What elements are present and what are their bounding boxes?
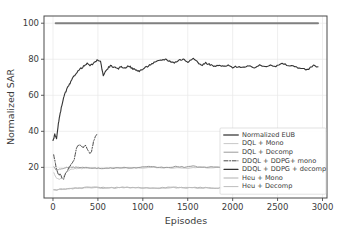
x-axis-title: Episodes: [165, 215, 207, 226]
y-tick-label: 40: [28, 126, 39, 136]
y-tick-label: 100: [23, 18, 39, 28]
y-tick-label: 20: [28, 162, 39, 172]
legend-label: DQL + Mono: [242, 139, 284, 147]
x-axis-tick-labels: 050010001500200025003000: [50, 202, 333, 212]
x-tick-label: 500: [90, 202, 106, 212]
x-tick-label: 0: [50, 202, 55, 212]
x-tick-label: 1000: [132, 202, 154, 212]
chart-figure: 050010001500200025003000 20406080100 Epi…: [0, 0, 340, 234]
x-tick-label: 2500: [267, 202, 289, 212]
chart-canvas: 050010001500200025003000 20406080100 Epi…: [0, 0, 340, 234]
legend-label: Heu + Decomp: [242, 182, 292, 190]
series-line: [54, 167, 222, 179]
series-line: [54, 187, 222, 190]
y-axis-tick-labels: 20406080100: [23, 18, 39, 172]
legend-label: DQL + Decomp: [242, 148, 293, 156]
legend-label: DDQL + DDPG+ mono: [242, 157, 316, 165]
legend-label: Normalized EUB: [242, 131, 295, 139]
y-axis-title: Normalized SAR: [5, 69, 16, 146]
x-tick-label: 2000: [222, 202, 244, 212]
legend-label: Heu + Mono: [242, 174, 283, 182]
x-tick-label: 3000: [312, 202, 334, 212]
series-line: [54, 134, 97, 179]
legend-label: DDQL + DDPG + decomp: [242, 165, 326, 173]
y-tick-label: 80: [28, 54, 39, 64]
x-tick-label: 1500: [177, 202, 199, 212]
y-tick-label: 60: [28, 90, 39, 100]
chart-legend[interactable]: Normalized EUBDQL + MonoDQL + DecompDDQL…: [220, 128, 326, 194]
